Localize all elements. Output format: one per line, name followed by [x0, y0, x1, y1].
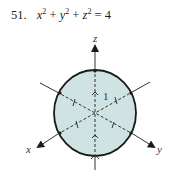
z-axis-label: z [92, 32, 98, 44]
tick-label-1: 1 [103, 90, 109, 102]
y-axis-label: y [156, 143, 162, 155]
sphere-figure: 1 z x y [0, 0, 176, 178]
x-axis-label: x [25, 143, 31, 155]
sphere [54, 70, 136, 156]
y-axis [133, 134, 154, 147]
x-axis [38, 134, 58, 147]
